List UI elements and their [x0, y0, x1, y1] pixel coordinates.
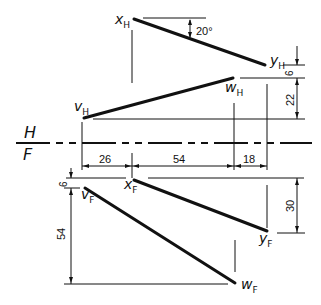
dim-22: 22 — [284, 94, 296, 106]
arrow-head — [125, 164, 131, 168]
arrow-head — [295, 79, 299, 85]
angle-label: 20° — [196, 25, 213, 37]
label-xF: xF — [123, 176, 137, 195]
arrow-head — [260, 164, 266, 168]
arrow-head — [69, 172, 73, 178]
line-xy-front-view — [134, 180, 267, 231]
fold-label-H: H — [24, 123, 36, 142]
dim-26: 26 — [99, 153, 111, 165]
line-vw-top-view — [84, 78, 233, 118]
arrow-head — [295, 59, 299, 65]
dim-54-horizontal: 54 — [173, 153, 185, 165]
arrow-head — [295, 226, 299, 232]
dim-6-front: 6 — [58, 181, 69, 187]
arrow-head — [295, 179, 299, 185]
label-xH: xH — [114, 11, 130, 30]
dim-18: 18 — [243, 153, 255, 165]
label-wF: wF — [241, 276, 258, 295]
line-vw-front-view — [85, 188, 235, 283]
arrow-head — [295, 112, 299, 118]
label-vH: vH — [74, 98, 89, 117]
arrow-head — [69, 277, 73, 283]
arrow-head — [188, 19, 192, 25]
arrow-head — [235, 164, 241, 168]
arrow-head — [227, 164, 233, 168]
dim-30: 30 — [284, 200, 296, 212]
label-vF: vF — [81, 186, 94, 205]
label-yF: yF — [258, 230, 272, 249]
arrow-head — [69, 189, 73, 195]
arrow-head — [133, 164, 139, 168]
fold-label-F: F — [23, 145, 33, 164]
label-yH: yH — [269, 52, 285, 71]
dim-54-vertical: 54 — [55, 228, 67, 240]
dim-6-top: 6 — [284, 70, 295, 76]
label-wH: wH — [225, 79, 243, 98]
projection-drawing: 20° 6 22 xH yH wH vH H F 26 54 18 — [0, 0, 321, 305]
arrow-head — [83, 164, 89, 168]
